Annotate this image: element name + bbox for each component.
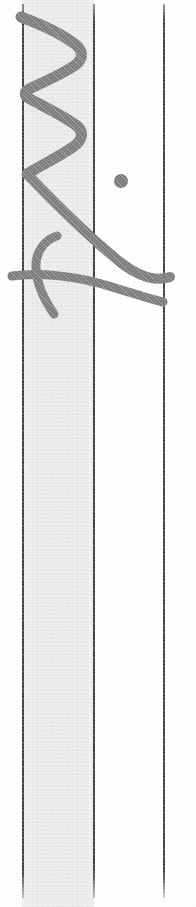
rule-left <box>22 4 24 898</box>
rule-middle <box>93 4 95 898</box>
rule-right <box>163 4 165 898</box>
shaded-column <box>22 0 94 907</box>
scanned-page: Narrow vertical slice of a scanned ruled… <box>0 0 196 907</box>
